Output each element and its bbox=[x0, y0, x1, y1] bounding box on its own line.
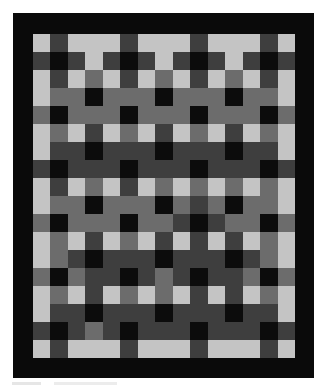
quilt-block bbox=[190, 70, 207, 88]
quilt-block bbox=[85, 250, 102, 268]
quilt-block bbox=[208, 160, 225, 178]
quilt-block bbox=[225, 34, 242, 52]
quilt-block bbox=[33, 124, 50, 142]
quilt-block bbox=[120, 106, 137, 124]
quilt-block bbox=[68, 340, 85, 358]
quilt-block bbox=[50, 214, 67, 232]
quilt-block bbox=[190, 286, 207, 304]
quilt-block bbox=[155, 214, 172, 232]
quilt-block bbox=[120, 34, 137, 52]
quilt-block bbox=[225, 88, 242, 106]
quilt-block bbox=[190, 124, 207, 142]
quilt-block bbox=[155, 160, 172, 178]
quilt-block bbox=[155, 232, 172, 250]
quilt-block bbox=[120, 232, 137, 250]
quilt-block bbox=[208, 88, 225, 106]
quilt-block bbox=[155, 340, 172, 358]
quilt-block bbox=[208, 124, 225, 142]
quilt-block bbox=[225, 322, 242, 340]
quilt-block bbox=[103, 322, 120, 340]
quilt-block bbox=[33, 34, 50, 52]
quilt-block bbox=[243, 34, 260, 52]
quilt-block bbox=[85, 196, 102, 214]
quilt-block bbox=[190, 142, 207, 160]
quilt-block bbox=[243, 142, 260, 160]
quilt-block bbox=[260, 142, 277, 160]
quilt-block bbox=[278, 286, 295, 304]
quilt-block bbox=[103, 286, 120, 304]
quilt-block bbox=[68, 70, 85, 88]
quilt-block bbox=[120, 124, 137, 142]
quilt-block bbox=[190, 214, 207, 232]
quilt-block bbox=[208, 52, 225, 70]
quilt-block bbox=[138, 304, 155, 322]
quilt-block bbox=[68, 196, 85, 214]
quilt-block bbox=[50, 304, 67, 322]
quilt-block bbox=[103, 88, 120, 106]
quilt-block bbox=[190, 160, 207, 178]
quilt-block bbox=[103, 250, 120, 268]
quilt-block bbox=[138, 34, 155, 52]
quilt-block bbox=[155, 286, 172, 304]
quilt-block bbox=[50, 160, 67, 178]
quilt-block bbox=[103, 232, 120, 250]
quilt-block bbox=[138, 268, 155, 286]
quilt-block bbox=[243, 106, 260, 124]
quilt-block bbox=[278, 34, 295, 52]
quilt-block bbox=[33, 70, 50, 88]
quilt-block bbox=[243, 160, 260, 178]
quilt-block bbox=[33, 268, 50, 286]
quilt-block bbox=[68, 106, 85, 124]
quilt-block bbox=[278, 106, 295, 124]
quilt-block bbox=[225, 286, 242, 304]
quilt-block-grid bbox=[33, 34, 295, 358]
quilt-block bbox=[50, 340, 67, 358]
quilt-block bbox=[68, 52, 85, 70]
quilt-block bbox=[85, 88, 102, 106]
quilt-block bbox=[173, 250, 190, 268]
quilt-block bbox=[278, 250, 295, 268]
quilt-block bbox=[190, 178, 207, 196]
quilt-block bbox=[260, 52, 277, 70]
quilt-block bbox=[173, 34, 190, 52]
quilt-block bbox=[33, 196, 50, 214]
quilt-block bbox=[173, 160, 190, 178]
quilt-block bbox=[120, 52, 137, 70]
quilt-block bbox=[225, 214, 242, 232]
quilt-block bbox=[225, 340, 242, 358]
quilt-block bbox=[85, 322, 102, 340]
quilt-block bbox=[50, 142, 67, 160]
quilt-block bbox=[225, 124, 242, 142]
quilt-block bbox=[120, 70, 137, 88]
quilt-block bbox=[50, 196, 67, 214]
quilt-block bbox=[50, 178, 67, 196]
quilt-block bbox=[260, 214, 277, 232]
quilt-block bbox=[260, 124, 277, 142]
quilt-block bbox=[50, 124, 67, 142]
quilt-block bbox=[85, 232, 102, 250]
quilt-block bbox=[208, 304, 225, 322]
quilt-block bbox=[278, 232, 295, 250]
quilt-block bbox=[278, 70, 295, 88]
quilt-block bbox=[155, 268, 172, 286]
quilt-block bbox=[155, 88, 172, 106]
quilt-block bbox=[138, 286, 155, 304]
quilt-block bbox=[208, 106, 225, 124]
quilt-block bbox=[173, 340, 190, 358]
quilt-block bbox=[225, 160, 242, 178]
quilt-block bbox=[33, 304, 50, 322]
quilt-block bbox=[260, 250, 277, 268]
quilt-block bbox=[68, 34, 85, 52]
quilt-block bbox=[155, 142, 172, 160]
quilt-block bbox=[173, 196, 190, 214]
quilt-block bbox=[208, 178, 225, 196]
quilt-block bbox=[225, 250, 242, 268]
faint-caption-strip bbox=[12, 382, 117, 385]
quilt-block bbox=[260, 304, 277, 322]
quilt-block bbox=[103, 106, 120, 124]
quilt-block bbox=[208, 142, 225, 160]
quilt-block bbox=[138, 88, 155, 106]
quilt-block bbox=[33, 286, 50, 304]
quilt-block bbox=[173, 124, 190, 142]
quilt-block bbox=[155, 70, 172, 88]
